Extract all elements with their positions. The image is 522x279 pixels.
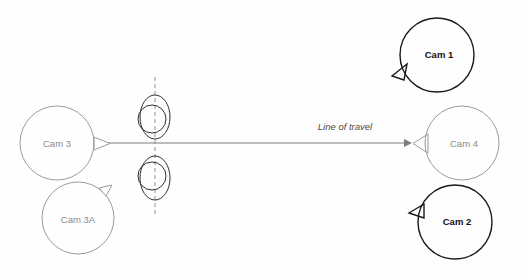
line-of-travel-group: Line of travel — [100, 121, 412, 147]
camera-node-cam-3a[interactable]: Cam 3A — [42, 182, 114, 254]
camera-layout-diagram: Line of travel Cam 3 Cam 3A — [0, 0, 522, 279]
line-of-travel-label: Line of travel — [318, 121, 373, 132]
cam-1-label: Cam 1 — [425, 49, 454, 60]
cam-4-label: Cam 4 — [450, 138, 478, 149]
cam-3-label: Cam 3 — [43, 138, 71, 149]
camera-node-cam-1[interactable]: Cam 1 — [392, 18, 474, 92]
target-marker-upper — [138, 95, 170, 139]
diagram-canvas: Line of travel Cam 3 Cam 3A — [0, 0, 522, 279]
cam-2-label: Cam 2 — [443, 216, 472, 227]
camera-node-cam-3[interactable]: Cam 3 — [20, 106, 110, 180]
cam-3a-view-pointer-icon — [99, 185, 112, 196]
line-of-travel-arrowhead — [404, 139, 412, 147]
cam-3-view-pointer-icon — [94, 137, 110, 150]
target-upper-circle — [138, 105, 166, 133]
target-marker-lower — [138, 156, 170, 200]
target-lower-circle — [138, 162, 166, 190]
camera-node-cam-4[interactable]: Cam 4 — [413, 106, 499, 180]
camera-node-cam-2[interactable]: Cam 2 — [409, 185, 492, 259]
cam-3a-label: Cam 3A — [61, 214, 96, 225]
